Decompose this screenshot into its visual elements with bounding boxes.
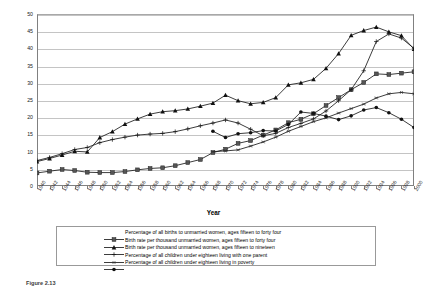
data-point [374, 72, 378, 76]
data-point [48, 169, 52, 173]
data-point [198, 124, 202, 128]
y-axis-tick-label: 10 [27, 149, 33, 155]
data-point [374, 39, 378, 43]
data-point [312, 112, 316, 116]
data-point [349, 107, 353, 110]
y-axis-tick-label: 45 [27, 28, 33, 34]
data-point [73, 169, 77, 173]
data-point [111, 171, 115, 175]
data-point [37, 171, 39, 175]
triangle-marker-icon [103, 237, 125, 244]
data-point [236, 148, 240, 151]
data-point [374, 97, 378, 100]
data-point [123, 135, 127, 139]
series-layer [37, 14, 414, 186]
data-point [362, 69, 366, 73]
data-point [400, 117, 404, 121]
legend-item-2[interactable]: Birth rate per thousand unmarried women,… [103, 237, 375, 244]
data-point [374, 25, 379, 29]
data-point [374, 106, 378, 110]
data-point [211, 129, 215, 133]
data-point [148, 167, 152, 171]
data-point [223, 118, 227, 122]
data-point [161, 166, 165, 170]
y-axis-tick-label: 15 [27, 131, 33, 137]
data-point [136, 168, 140, 172]
chart-figure: 05101520253035404550 1940194219441946194… [0, 0, 427, 290]
data-point [110, 129, 115, 133]
y-axis-tick-label: 30 [27, 80, 33, 86]
data-point [274, 129, 278, 133]
legend-label: Birth rate per thousand unmarried women,… [125, 244, 275, 251]
data-point [123, 170, 127, 174]
x-axis-tick-labels: 1940194219441946194819501952195419561958… [0, 189, 427, 211]
data-point [362, 103, 366, 106]
data-point [85, 170, 89, 174]
legend-item-1[interactable]: Percentage of all births to unmarried wo… [103, 229, 375, 236]
data-point [173, 164, 177, 168]
data-point [337, 118, 341, 122]
data-point [112, 268, 116, 272]
data-point [98, 135, 103, 139]
y-axis-tick-label: 50 [27, 11, 33, 17]
data-point [362, 81, 366, 85]
legend-item-4[interactable]: Percentage of all children under eightee… [103, 252, 375, 259]
data-point [261, 129, 265, 133]
legend-label: Birth rate per thousand unmarried women,… [125, 237, 275, 244]
data-point [148, 132, 152, 136]
data-point [337, 112, 341, 115]
series-2 [37, 25, 414, 164]
data-point [223, 93, 228, 97]
data-point [249, 145, 253, 148]
data-point [412, 70, 414, 74]
data-point [236, 132, 240, 136]
legend-label: Percentage of all births to unmarried wo… [125, 229, 281, 236]
data-point [211, 101, 216, 105]
data-point [98, 140, 102, 144]
series-line [37, 72, 414, 173]
data-point [387, 73, 391, 77]
data-point [198, 158, 202, 162]
data-point [236, 141, 240, 145]
data-point [85, 145, 89, 149]
data-point [274, 136, 278, 139]
figure-caption: Figure 2.13 [26, 280, 56, 286]
data-point [60, 168, 64, 172]
square-marker-icon [103, 229, 125, 236]
data-point [387, 111, 391, 115]
series-line [37, 34, 414, 161]
data-point [249, 131, 253, 135]
y-axis-tick-labels: 05101520253035404550 [0, 14, 35, 186]
data-point [299, 110, 303, 114]
series-3 [37, 32, 414, 163]
data-point [110, 137, 114, 141]
data-point [211, 121, 215, 125]
legend-label: Percentage of all children under eightee… [125, 252, 267, 259]
data-point [186, 127, 190, 131]
data-point [387, 92, 391, 95]
data-point [324, 114, 328, 118]
data-point [249, 139, 253, 143]
y-axis-tick-label: 25 [27, 97, 33, 103]
data-point [324, 104, 328, 108]
data-point [160, 131, 164, 135]
data-point [248, 127, 252, 131]
data-point [400, 71, 404, 75]
y-axis-tick-label: 20 [27, 114, 33, 120]
data-point [186, 161, 190, 165]
plus-marker-icon [103, 244, 125, 251]
data-point [173, 129, 177, 133]
legend-item-3[interactable]: Birth rate per thousand unmarried women,… [103, 244, 375, 251]
data-point [224, 136, 228, 140]
data-point [261, 141, 265, 144]
series-4 [211, 91, 414, 153]
data-point [135, 133, 139, 137]
diamond-marker-icon [103, 259, 125, 266]
asterisk-marker-icon [103, 252, 125, 259]
data-point [98, 171, 102, 175]
y-axis-tick-label: 40 [27, 45, 33, 51]
legend-item-5[interactable]: Percentage of all children under eightee… [103, 259, 375, 266]
series-1 [37, 70, 414, 175]
data-point [362, 108, 366, 112]
y-axis-tick-label: 5 [30, 166, 33, 172]
